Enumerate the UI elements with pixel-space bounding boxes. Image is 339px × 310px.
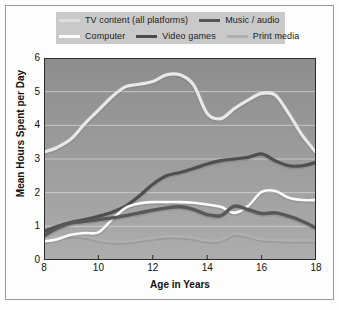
y-tick-label: 4 [26,120,40,130]
legend-swatch-tv-content [59,19,80,22]
x-tick-label: 10 [87,263,109,273]
x-tick-label: 18 [305,263,327,273]
legend-label-computer: Computer [85,31,125,41]
legend-item-print-media: Print media [227,28,300,44]
legend-item-music-audio: Music / audio [199,12,279,28]
legend-label-music-audio: Music / audio [225,15,279,25]
legend-row-2: Computer Video games Print media [56,28,285,44]
legend-item-tv-content: TV content (all platforms) [59,12,188,28]
y-tick-label: 5 [26,87,40,97]
x-tick-label: 14 [196,263,218,273]
legend-label-video-games: Video games [162,31,215,41]
y-tick-label: 3 [26,154,40,164]
legend-label-tv-content: TV content (all platforms) [85,15,188,25]
plot-area [44,58,316,260]
y-axis-title: Mean Hours Spent per Day [15,54,26,214]
plot-svg [44,58,316,260]
x-tick-label: 16 [251,263,273,273]
legend-swatch-print-media [227,35,248,38]
legend-item-computer: Computer [59,28,125,44]
legend-swatch-computer [59,35,80,38]
legend-swatch-music-audio [199,19,220,22]
y-tick-label: 1 [26,221,40,231]
y-tick-label: 2 [26,188,40,198]
legend-swatch-video-games [136,35,157,38]
x-tick-label: 8 [33,263,55,273]
chart-figure: TV content (all platforms) Music / audio… [0,0,339,310]
legend-label-print-media: Print media [253,31,300,41]
x-axis-ticks: 81012141618 [44,263,316,275]
legend-row-1: TV content (all platforms) Music / audio [56,12,285,28]
chart-legend: TV content (all platforms) Music / audio… [56,12,285,44]
legend-item-video-games: Video games [136,28,215,44]
x-axis-title: Age in Years [44,279,316,290]
x-tick-label: 12 [142,263,164,273]
y-tick-label: 6 [26,53,40,63]
